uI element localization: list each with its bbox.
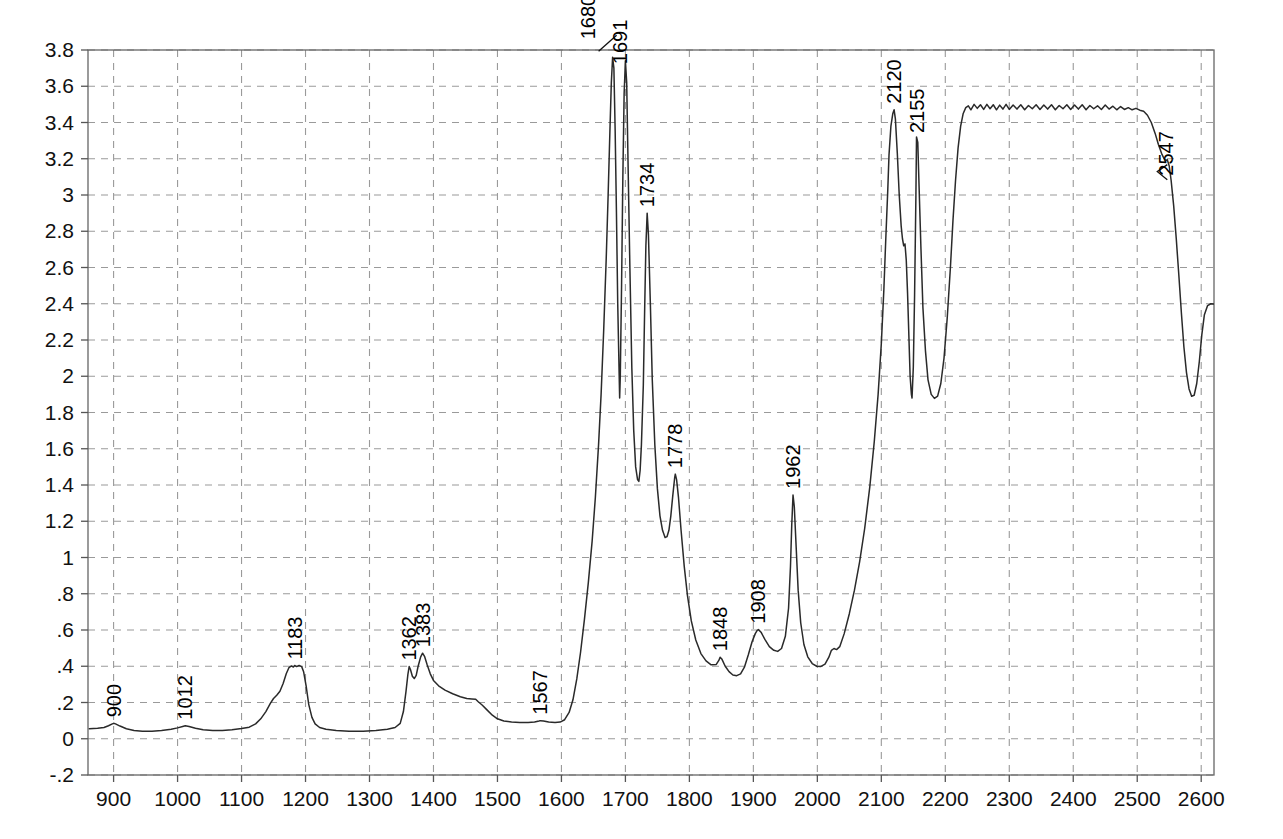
x-tick-label-2100: 2100 xyxy=(858,787,905,810)
y-tick-label: 3.8 xyxy=(45,38,74,61)
peak-label-1778: 1778 xyxy=(664,424,686,469)
peak-label-900: 900 xyxy=(103,684,125,717)
x-tick-label-2300: 2300 xyxy=(986,787,1033,810)
x-tick-label-1000: 1000 xyxy=(154,787,201,810)
peak-label-1908: 1908 xyxy=(747,579,769,624)
y-tick-label: 1 xyxy=(62,546,74,569)
peak-label-1962: 1962 xyxy=(782,444,804,489)
y-tick-label: 3.6 xyxy=(45,74,74,97)
x-tick-label-2600: 2600 xyxy=(1178,787,1225,810)
spectrum-chart: 9001000110012001300140015001600170018001… xyxy=(0,0,1283,839)
x-tick-label-1700: 1700 xyxy=(602,787,649,810)
peak-label-1680: 1680 xyxy=(577,0,599,39)
x-tick-label-1800: 1800 xyxy=(666,787,713,810)
y-tick-label: 1.2 xyxy=(45,509,74,532)
x-tick-label-2500: 2500 xyxy=(1114,787,1161,810)
peak-label-1383: 1383 xyxy=(412,603,434,648)
x-tick-label-900: 900 xyxy=(96,787,131,810)
y-tick-label: 2.8 xyxy=(45,219,74,242)
peak-label-2155: 2155 xyxy=(906,89,928,134)
y-tick-label: 1.6 xyxy=(45,437,74,460)
x-tick-label-2400: 2400 xyxy=(1050,787,1097,810)
y-tick-label: 2.2 xyxy=(45,328,74,351)
x-tick-label-1400: 1400 xyxy=(410,787,457,810)
y-tick-label: .4 xyxy=(56,654,74,677)
x-tick-label-1900: 1900 xyxy=(730,787,777,810)
peak-label-2547: 2547 xyxy=(1155,131,1177,176)
y-tick-label: 2.4 xyxy=(45,292,75,315)
x-tick-label-2000: 2000 xyxy=(794,787,841,810)
x-tick-label-1200: 1200 xyxy=(282,787,329,810)
y-tick-label: .8 xyxy=(56,582,74,605)
y-tick-label: 3.2 xyxy=(45,147,74,170)
x-tick-label-1300: 1300 xyxy=(346,787,393,810)
x-tick-label-1500: 1500 xyxy=(474,787,521,810)
peak-label-1567: 1567 xyxy=(529,670,551,715)
y-tick-label: 1.4 xyxy=(45,473,75,496)
peak-label-1848: 1848 xyxy=(709,607,731,652)
x-tick-label-1600: 1600 xyxy=(538,787,585,810)
x-tick-label-1100: 1100 xyxy=(219,787,264,810)
spectrum-plot: 9001000110012001300140015001600170018001… xyxy=(0,0,1283,839)
y-tick-label: -.2 xyxy=(49,763,74,786)
y-tick-label: .2 xyxy=(56,691,74,714)
y-tick-label: 1.8 xyxy=(45,401,74,424)
peak-label-2120: 2120 xyxy=(883,59,905,104)
y-tick-label: 3 xyxy=(62,183,74,206)
peak-label-1012: 1012 xyxy=(174,675,196,720)
y-tick-label: .6 xyxy=(56,618,74,641)
y-axis-tick-marks xyxy=(81,50,88,775)
y-tick-label: 0 xyxy=(62,727,74,750)
y-tick-label: 3.4 xyxy=(45,111,75,134)
peak-label-1691: 1691 xyxy=(609,20,631,65)
y-tick-label: 2.6 xyxy=(45,256,74,279)
x-tick-label-2200: 2200 xyxy=(922,787,969,810)
peak-label-1183: 1183 xyxy=(284,617,306,660)
y-tick-label: 2 xyxy=(62,364,74,387)
peak-label-1734: 1734 xyxy=(636,163,658,208)
